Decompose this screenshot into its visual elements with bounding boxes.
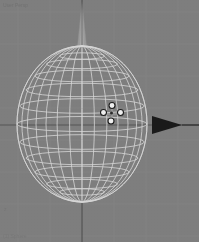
viewport-header-label: User Persp (3, 2, 28, 8)
viewport-axis-label: z (4, 206, 7, 212)
viewport-object-label: (1) Sphere (3, 233, 27, 239)
x-axis-arrow-icon[interactable] (0, 0, 199, 242)
viewport-scene[interactable] (0, 0, 199, 242)
3d-viewport[interactable]: User Persp z (1) Sphere (0, 0, 199, 242)
